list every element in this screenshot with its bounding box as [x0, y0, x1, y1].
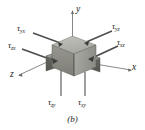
stress-label-tau-zx: τzx [8, 41, 16, 50]
axis-label-z: z [10, 70, 14, 80]
stress-label-tau-zy: τzy [48, 98, 56, 107]
tau-zx-subscript: zx [11, 45, 15, 51]
stress-label-tau-xy: τxy [78, 98, 86, 107]
axis-label-x-text: x [132, 62, 136, 72]
stress-cube [52, 36, 96, 76]
x-axis-line [95, 64, 131, 70]
axis-label-y: y [76, 5, 80, 15]
stress-label-tau-xz: τxz [117, 38, 125, 47]
stress-label-tau-yx: τyx [17, 24, 25, 33]
tau-xz-subscript: xz [120, 42, 124, 48]
axis-label-y-text: y [76, 4, 80, 14]
figure-graphics [0, 0, 145, 130]
z-axis-tip [18, 73, 22, 76]
y-axis-tip [71, 10, 74, 14]
stress-element-figure: y x z τyx τyz τzx τxz τzy τxy (b) [0, 0, 145, 130]
tau-zy-subscript: zy [51, 102, 55, 108]
stress-label-tau-yz: τyz [112, 22, 120, 31]
tau-xy-subscript: xy [81, 102, 86, 108]
figure-caption: (b) [0, 114, 145, 124]
leader-tau-yz [84, 31, 112, 43]
axis-label-x: x [132, 63, 136, 73]
tau-yx-subscript: yx [20, 28, 25, 34]
tau-yz-subscript: yz [115, 26, 119, 32]
axis-label-z-text: z [10, 69, 14, 79]
